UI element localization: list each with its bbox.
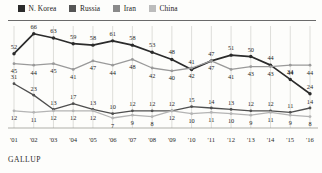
x-axis-tick-label: '01: [10, 136, 18, 143]
data-label: 12: [11, 114, 17, 121]
data-label: 13: [50, 99, 56, 106]
line-chart-plot: 5266635958615853484147515044342445444541…: [0, 20, 322, 155]
data-point: [190, 67, 193, 70]
data-label: 43: [248, 70, 254, 77]
data-label: 13: [228, 99, 234, 106]
data-label: 12: [70, 114, 76, 121]
legend-item-russia[interactable]: Russia: [69, 4, 100, 13]
data-label: 9: [289, 119, 292, 126]
data-point: [13, 109, 16, 112]
data-point: [91, 43, 94, 46]
data-label: 43: [267, 70, 273, 77]
chart-container: N. KoreaRussiaIranChina 5266635958615853…: [0, 0, 322, 173]
data-point: [32, 64, 35, 67]
data-point: [230, 112, 233, 115]
data-label: 11: [267, 116, 273, 123]
data-point: [111, 39, 114, 42]
data-point: [249, 114, 252, 117]
x-axis-tick-label: '02: [30, 136, 38, 143]
data-label: 53: [149, 41, 155, 48]
data-point: [309, 64, 312, 67]
data-label: 47: [208, 64, 214, 71]
data-point: [32, 111, 35, 114]
data-label: 23: [31, 85, 37, 92]
data-label: 42: [188, 72, 194, 79]
data-point: [131, 43, 134, 46]
legend-label: China: [160, 4, 178, 13]
legend-label: Iran: [124, 4, 136, 13]
data-point: [308, 92, 311, 95]
data-point: [131, 58, 134, 61]
data-point: [151, 115, 154, 118]
legend-label: N. Korea: [29, 4, 57, 13]
x-axis-tick-label: '12: [227, 136, 235, 143]
legend-swatch-icon: [113, 5, 120, 12]
legend-swatch-icon: [18, 5, 25, 12]
data-label: 58: [90, 34, 96, 41]
data-point: [249, 65, 252, 68]
data-label: 11: [208, 116, 214, 123]
data-label: 44: [287, 69, 294, 76]
data-label: 13: [90, 99, 96, 106]
data-point: [170, 69, 173, 72]
x-axis-tick-label: '09: [168, 136, 176, 143]
data-label: 11: [287, 102, 293, 109]
data-label: 10: [110, 103, 116, 110]
x-axis-tick-label: '03: [50, 136, 58, 143]
data-point: [13, 82, 16, 85]
data-label: 12: [129, 100, 135, 107]
legend-item-n-korea[interactable]: N. Korea: [18, 4, 56, 13]
data-label: 7: [111, 122, 114, 129]
data-label: 59: [70, 33, 76, 40]
data-point: [32, 94, 35, 97]
data-point: [151, 67, 154, 70]
x-axis-tick-label: '15: [286, 136, 294, 143]
x-axis-tick-label: '10: [188, 136, 196, 143]
series-line-china: [14, 111, 310, 118]
data-point: [52, 62, 55, 65]
data-label: 61: [110, 30, 116, 37]
data-label: 63: [50, 27, 56, 34]
data-label: 47: [208, 50, 214, 57]
data-label: 8: [308, 120, 311, 127]
data-label: 14: [307, 98, 314, 105]
data-label: 31: [11, 73, 17, 80]
data-label: 12: [248, 100, 254, 107]
data-label: 12: [169, 114, 175, 121]
data-point: [111, 64, 114, 67]
data-point: [230, 68, 233, 71]
data-point: [229, 53, 232, 56]
data-label: 44: [307, 69, 314, 76]
data-label: 12: [50, 114, 56, 121]
data-point: [13, 62, 16, 65]
data-label: 17: [70, 93, 76, 100]
legend-item-china[interactable]: China: [149, 4, 178, 13]
data-label: 41: [70, 73, 76, 80]
data-point: [12, 52, 15, 55]
data-point: [72, 68, 75, 71]
chart-legend: N. KoreaRussiaIranChina: [18, 4, 178, 13]
data-point: [190, 105, 193, 108]
legend-item-iran[interactable]: Iran: [113, 4, 136, 13]
data-label: 9: [249, 119, 252, 126]
data-point: [170, 58, 173, 61]
data-point: [309, 107, 312, 110]
data-point: [111, 117, 114, 120]
data-point: [52, 36, 55, 39]
data-label: 48: [129, 63, 135, 70]
data-label: 42: [149, 72, 155, 79]
data-label: 14: [208, 98, 215, 105]
data-label: 44: [31, 69, 38, 76]
data-point: [249, 109, 252, 112]
series-line-n-korea: [14, 34, 310, 94]
data-label: 10: [228, 117, 234, 124]
data-point: [210, 107, 213, 110]
data-label: 50: [248, 46, 254, 53]
x-axis-tick-label: '08: [148, 136, 156, 143]
series-line-iran: [14, 84, 310, 114]
data-point: [131, 114, 134, 117]
data-point: [210, 59, 213, 62]
legend-swatch-icon: [69, 5, 76, 12]
data-point: [150, 51, 153, 54]
data-label: 12: [169, 100, 175, 107]
